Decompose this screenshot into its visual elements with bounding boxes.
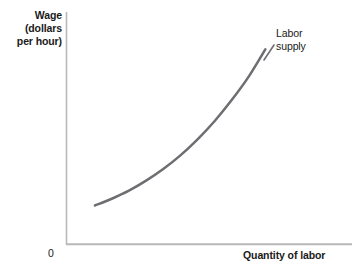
x-axis-label: Quantity of labor [243,249,325,262]
labor-supply-annotation: Labor supply [276,27,306,53]
annotation-leader-line [264,45,274,60]
labor-supply-curve [95,49,265,205]
y-axis-label: Wage (dollars per hour) [17,9,62,48]
labor-supply-chart: Wage (dollars per hour) Quantity of labo… [0,0,364,277]
origin-label: 0 [48,247,54,260]
